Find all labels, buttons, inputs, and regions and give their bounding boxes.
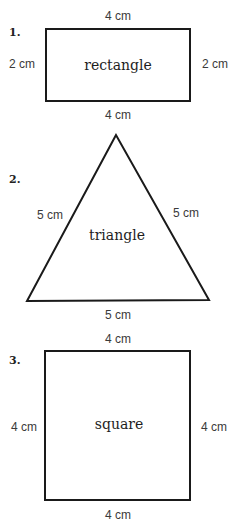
figure-3-number: 3. bbox=[9, 354, 20, 367]
rectangle-left-label: 2 cm bbox=[9, 57, 35, 71]
square-name: square bbox=[95, 416, 144, 432]
square-left-label: 4 cm bbox=[11, 420, 37, 434]
figure-1-number: 1. bbox=[9, 26, 20, 39]
rectangle-top-label: 4 cm bbox=[105, 9, 131, 23]
triangle-bottom-label: 5 cm bbox=[105, 308, 131, 322]
square-right-label: 4 cm bbox=[201, 420, 227, 434]
triangle-name: triangle bbox=[89, 227, 145, 243]
square-bottom-label: 4 cm bbox=[105, 508, 131, 521]
square-top-label: 4 cm bbox=[105, 332, 131, 346]
shapes-canvas bbox=[0, 0, 245, 521]
rectangle-name: rectangle bbox=[84, 57, 152, 73]
rectangle-right-label: 2 cm bbox=[202, 57, 228, 71]
triangle-right-label: 5 cm bbox=[173, 206, 199, 220]
rectangle-bottom-label: 4 cm bbox=[105, 108, 131, 122]
figure-2-number: 2. bbox=[9, 173, 20, 186]
triangle-left-label: 5 cm bbox=[37, 208, 63, 222]
shapes-worksheet: 1. 4 cm 2 cm 2 cm 4 cm rectangle 2. 5 cm… bbox=[0, 0, 245, 521]
